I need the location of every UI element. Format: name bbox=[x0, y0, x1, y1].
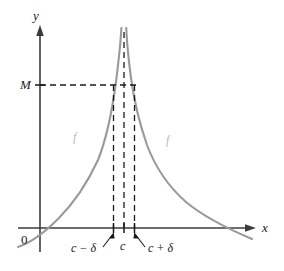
leader-arrowhead-c-plus-delta bbox=[133, 232, 138, 238]
diagram-canvas bbox=[0, 0, 284, 271]
origin-label: 0 bbox=[21, 233, 28, 246]
curve-label-right-f: f bbox=[166, 134, 169, 146]
tick-label-c-minus-delta: c − δ bbox=[71, 242, 96, 254]
tick-label-c-plus-delta: c + δ bbox=[148, 242, 173, 254]
x-axis-arrowhead bbox=[245, 224, 256, 232]
threshold-label-M: M bbox=[20, 78, 31, 91]
curve-left-branch bbox=[18, 28, 121, 247]
guide-lines-group bbox=[40, 32, 138, 228]
tick-marks-group bbox=[35, 85, 135, 233]
curve-right-branch bbox=[126, 28, 252, 239]
y-axis-arrowhead bbox=[36, 25, 44, 36]
curve-label-left-f: f bbox=[73, 131, 76, 143]
y-axis-label: y bbox=[33, 9, 39, 22]
leader-arrowhead-c-minus-delta bbox=[109, 232, 114, 238]
figure-container: y x 0 M c − δ c c + δ f f bbox=[0, 0, 284, 271]
tick-label-c: c bbox=[120, 240, 125, 252]
axes-group bbox=[18, 25, 256, 252]
x-axis-label: x bbox=[262, 221, 268, 234]
